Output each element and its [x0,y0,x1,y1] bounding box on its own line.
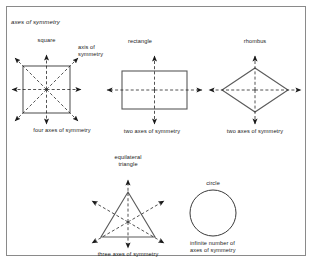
triangle-axis-oblique-upleft [92,201,128,222]
axis-callout-line2: symmetry [78,51,103,58]
triangle-label-line2: triangle [118,161,137,168]
circle-caption-line2: axes of symmetry [190,247,236,254]
square-label: square [38,37,56,44]
rhombus-figure [209,56,301,124]
square-axis-diagonal-ne [47,58,79,90]
rectangle-label: rectangle [128,38,152,45]
triangle-axis-oblique-downright [128,222,164,243]
circle-figure [190,190,236,236]
square-figure [12,55,81,124]
square-caption: four axes of symmetry [33,127,90,134]
square-axis-diagonal-sw [15,90,47,122]
rectangle-caption: two axes of symmetry [124,128,180,135]
rectangle-figure [107,56,202,124]
rhombus-caption: two axes of symmetry [227,128,283,135]
triangle-label-line1: equilateral [114,154,141,161]
axis-callout-line1: axis of [78,44,95,51]
square-axis-diagonal-se [47,90,79,122]
rhombus-label: rhombus [244,38,267,45]
circle-shape [190,190,236,236]
triangle-axis-oblique-downleft [92,222,128,243]
circle-caption-line1: infinite number of [190,240,235,247]
circle-label: circle [206,180,220,187]
triangle-figure [92,180,164,248]
symmetry-figure: axes of symmetry square four axes of sym… [0,0,314,264]
square-axis-diagonal-nw [15,58,47,90]
triangle-axis-oblique-upright [128,201,164,222]
figure-heading: axes of symmetry [11,19,60,26]
triangle-caption: three axes of symmetry [98,251,159,258]
